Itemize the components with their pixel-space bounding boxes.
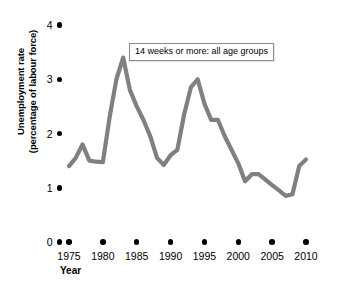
chart-container: Unemployment rate (percentage of labour …	[0, 0, 337, 288]
tick-dot-icon	[202, 239, 208, 245]
tick-dot-icon	[168, 239, 174, 245]
tick-dot-icon	[303, 239, 309, 245]
tick-dot-icon	[134, 239, 140, 245]
tick-dot-icon	[66, 239, 72, 245]
x-tick-label: 2010	[286, 250, 326, 262]
tick-dot-icon	[269, 239, 275, 245]
tick-dot-icon	[100, 239, 106, 245]
tick-dot-icon	[236, 239, 242, 245]
legend-annotation-box: 14 weeks or more: all age groups	[129, 43, 274, 61]
series-line-14-weeks-or-more	[69, 58, 306, 196]
x-axis-title: Year	[60, 265, 81, 276]
